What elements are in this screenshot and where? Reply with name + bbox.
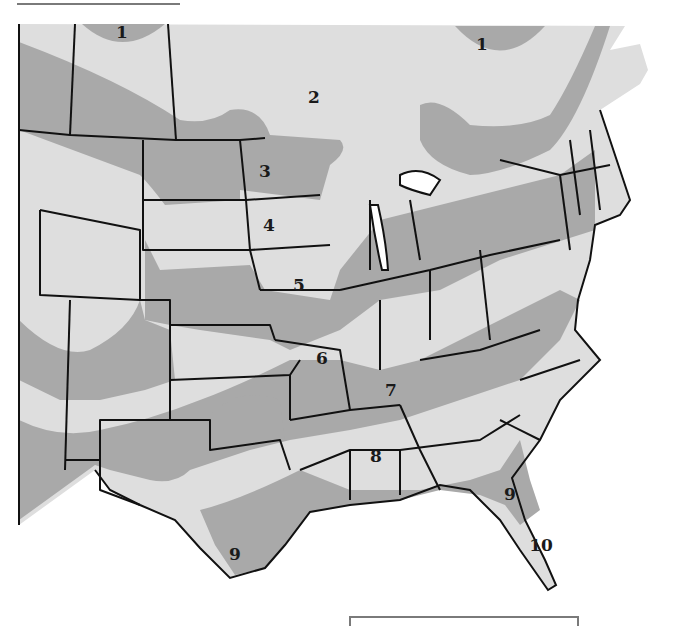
zone-label: 3 bbox=[259, 161, 271, 181]
zone-label: 6 bbox=[316, 348, 328, 368]
zone-label: 10 bbox=[529, 535, 553, 555]
zone-label: 5 bbox=[293, 275, 305, 295]
zone-label: 9 bbox=[504, 484, 516, 504]
zone-label: 7 bbox=[385, 380, 397, 400]
zone-label: 4 bbox=[263, 215, 275, 235]
zone-label: 1 bbox=[476, 34, 488, 54]
zone-label: 9 bbox=[229, 544, 241, 564]
bottom-frame-box bbox=[349, 616, 579, 626]
zone-label: 8 bbox=[370, 446, 382, 466]
zone-label: 1 bbox=[116, 22, 128, 42]
zone-label: 2 bbox=[308, 87, 320, 107]
